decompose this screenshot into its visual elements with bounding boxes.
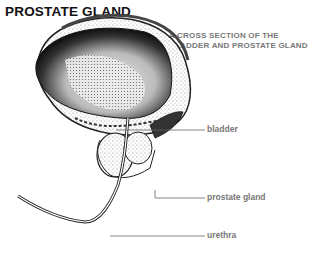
- anatomy-illustration: [0, 0, 330, 266]
- label-prostate-gland: prostate gland: [207, 192, 266, 202]
- label-urethra: urethra: [207, 230, 236, 240]
- label-bladder: bladder: [207, 124, 238, 134]
- prostate-leader-line: [155, 190, 205, 198]
